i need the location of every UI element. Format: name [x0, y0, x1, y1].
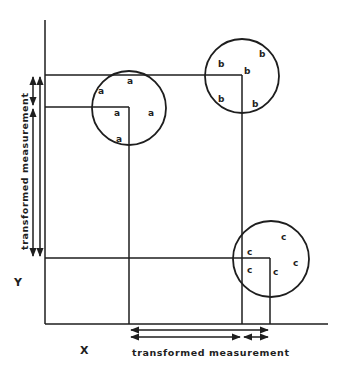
x-axis-label: X [80, 344, 89, 357]
point-b: b [252, 99, 259, 109]
axes [45, 20, 328, 324]
point-a: a [127, 76, 133, 86]
point-b: b [244, 66, 251, 76]
point-a: a [114, 108, 120, 118]
point-b: b [259, 49, 266, 59]
cluster-c-points: c c c c c [247, 232, 298, 277]
y-measurement-arrows [33, 77, 40, 256]
point-a: a [116, 134, 122, 144]
point-c: c [247, 265, 252, 275]
point-b: b [218, 94, 225, 104]
x-measurement-label: transformed measurement [132, 347, 290, 358]
point-a: a [98, 86, 104, 96]
point-a: a [148, 108, 154, 118]
cluster-diagram: a a a a a b b b b b c c c c c transforme… [0, 0, 345, 371]
point-c: c [247, 247, 252, 257]
point-b: b [218, 59, 225, 69]
x-measurement-arrows [131, 330, 268, 337]
point-c: c [273, 267, 278, 277]
cluster-a-points: a a a a a [98, 76, 154, 144]
point-c: c [281, 232, 286, 242]
y-measurement-label: transformed measurement [19, 92, 30, 250]
y-axis-label: Y [13, 276, 23, 289]
point-c: c [293, 258, 298, 268]
